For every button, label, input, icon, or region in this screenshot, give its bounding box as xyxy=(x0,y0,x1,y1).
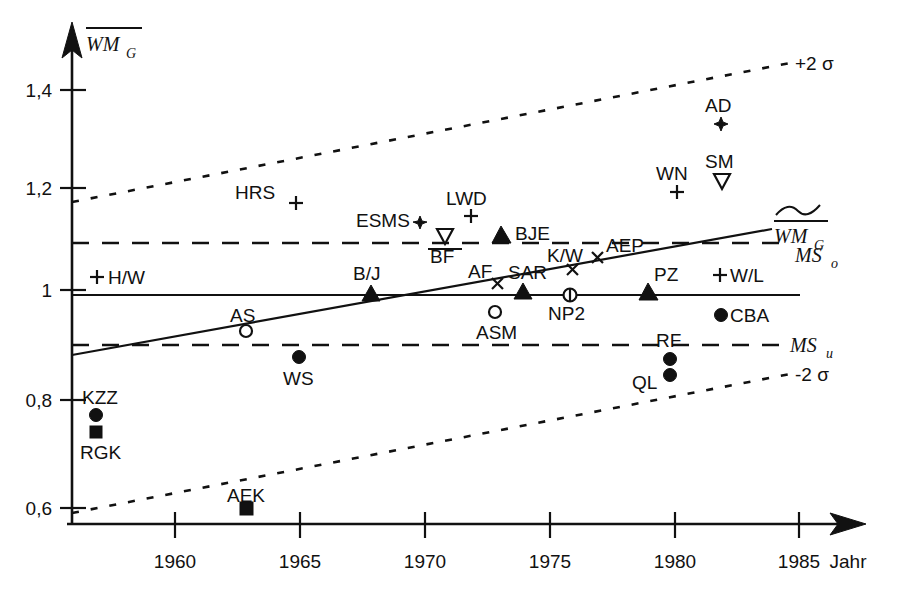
data-label-ws: WS xyxy=(283,368,314,389)
y-tick-label-1-4: 1,4 xyxy=(26,80,53,101)
x-tick-label-1975: 1975 xyxy=(529,551,571,572)
y-axis-title-sub: G xyxy=(126,46,136,61)
ms-u-label: MS u xyxy=(789,334,833,361)
data-label-ad: AD xyxy=(705,95,731,116)
data-point-as[interactable]: AS xyxy=(230,305,255,337)
data-label-pz: PZ xyxy=(654,264,679,285)
tilde-icon xyxy=(776,205,820,215)
data-point-ws[interactable]: WS xyxy=(283,351,314,390)
data-label-hw: H/W xyxy=(108,267,145,288)
data-label-af: AF xyxy=(468,261,492,282)
data-point-aep[interactable]: AEP xyxy=(592,235,644,263)
y-tick-label-1-2: 1,2 xyxy=(26,178,52,199)
plus-icon xyxy=(90,270,104,284)
minus-2-sigma-line xyxy=(72,374,790,513)
y-axis-title: WM G xyxy=(86,28,142,61)
data-label-asm: ASM xyxy=(476,322,517,343)
data-label-rgk: RGK xyxy=(80,442,122,463)
plus-2-sigma-label: +2 σ xyxy=(795,53,834,74)
data-point-esms[interactable]: ESMS xyxy=(356,210,427,231)
data-point-ql[interactable]: QL xyxy=(632,369,677,394)
data-point-lwd[interactable]: LWD xyxy=(446,188,487,223)
regression-line-label: WM G xyxy=(774,205,828,253)
x-tick-label-1960: 1960 xyxy=(154,551,196,572)
data-point-bf[interactable]: BF xyxy=(428,229,462,267)
triangle-filled-icon xyxy=(362,285,380,301)
scatter-plot-svg: 1,4 1,2 1 0,8 0,6 1960 1965 1970 1975 19… xyxy=(0,0,901,599)
x-icon xyxy=(492,278,503,289)
y-tick-label-0-6: 0,6 xyxy=(26,498,52,519)
data-label-lwd: LWD xyxy=(446,188,487,209)
y-tick-label-0-8: 0,8 xyxy=(26,390,52,411)
data-point-kw[interactable]: K/W xyxy=(547,245,583,275)
data-point-kzz[interactable]: KZZ xyxy=(82,387,118,422)
plus-icon xyxy=(670,185,684,199)
star-icon xyxy=(413,216,427,229)
data-point-wl[interactable]: W/L xyxy=(713,265,764,286)
data-label-esms: ESMS xyxy=(356,210,410,231)
triangle-filled-icon xyxy=(492,226,511,243)
triangle-filled-icon xyxy=(514,283,532,299)
data-point-hrs[interactable]: HRS xyxy=(235,182,303,210)
circle-filled-icon xyxy=(664,353,677,366)
data-point-sm[interactable]: SM xyxy=(705,151,734,189)
data-label-rf: RF xyxy=(656,330,681,351)
data-label-as: AS xyxy=(230,305,255,326)
data-label-sar: SAR xyxy=(508,262,547,283)
y-tick-label-1: 1 xyxy=(41,280,52,301)
data-point-bje[interactable]: BJE xyxy=(492,223,550,244)
star-icon xyxy=(714,117,728,131)
circle-filled-icon xyxy=(90,409,103,422)
chart-canvas: 1,4 1,2 1 0,8 0,6 1960 1965 1970 1975 19… xyxy=(0,0,901,599)
data-label-cba: CBA xyxy=(730,305,769,326)
x-tick-label-1980: 1980 xyxy=(654,551,696,572)
ms-u-label-sub: u xyxy=(826,346,833,361)
circle-filled-icon xyxy=(293,351,306,364)
data-label-wl: W/L xyxy=(730,265,764,286)
minus-2-sigma-label: -2 σ xyxy=(795,364,829,385)
y-tick-labels: 1,4 1,2 1 0,8 0,6 xyxy=(26,80,53,519)
circle-filled-icon xyxy=(715,309,728,322)
data-point-hw[interactable]: H/W xyxy=(90,267,145,288)
circle-open-icon xyxy=(489,306,501,318)
data-point-cba[interactable]: CBA xyxy=(715,305,770,326)
data-point-af[interactable]: AF xyxy=(468,261,503,289)
x-tick-label-1970: 1970 xyxy=(404,551,446,572)
data-label-np2: NP2 xyxy=(548,303,585,324)
data-point-rf[interactable]: RF xyxy=(656,330,681,366)
data-label-bj: B/J xyxy=(353,263,380,284)
data-label-kzz: KZZ xyxy=(82,387,118,408)
data-point-rgk[interactable]: RGK xyxy=(80,426,122,463)
data-label-kw: K/W xyxy=(547,245,583,266)
triangle-down-open-icon xyxy=(714,174,730,189)
data-point-np2[interactable]: NP2 xyxy=(548,289,585,325)
x-tick-label-1965: 1965 xyxy=(279,551,321,572)
data-label-hrs: HRS xyxy=(235,182,275,203)
circle-filled-icon xyxy=(664,369,677,382)
square-filled-icon xyxy=(90,426,102,438)
data-point-asm[interactable]: ASM xyxy=(476,306,517,343)
regression-label-sub: G xyxy=(814,238,824,253)
x-axis-title: Jahr xyxy=(830,551,868,572)
data-label-wn: WN xyxy=(656,163,688,184)
plus-icon xyxy=(464,209,478,223)
x-tick-label-1985: 1985 xyxy=(778,551,820,572)
plus-icon xyxy=(289,196,303,210)
square-filled-icon xyxy=(240,502,253,515)
data-label-aep: AEP xyxy=(606,235,644,256)
ms-u-label-main: MS xyxy=(789,334,817,356)
data-label-ql: QL xyxy=(632,372,657,393)
plus-icon xyxy=(713,268,727,282)
data-point-sar[interactable]: SAR xyxy=(508,262,547,299)
data-point-ad[interactable]: AD xyxy=(705,95,731,131)
circle-open-icon xyxy=(240,325,252,337)
ms-o-label-sub: o xyxy=(831,256,838,271)
data-label-sm: SM xyxy=(705,151,734,172)
triangle-filled-icon xyxy=(639,283,658,300)
regression-label-main: WM xyxy=(774,225,809,247)
data-point-wn[interactable]: WN xyxy=(656,163,688,199)
data-point-aek[interactable]: AEK xyxy=(227,485,265,515)
data-label-bje: BJE xyxy=(515,223,550,244)
y-axis-title-main: WM xyxy=(86,33,121,55)
x-tick-labels: 1960 1965 1970 1975 1980 1985 xyxy=(154,551,820,572)
